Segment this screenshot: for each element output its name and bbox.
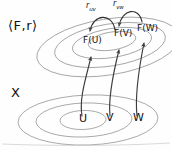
upper-ellipse-outer [33, 8, 172, 86]
section-label-FU: F(U) [83, 36, 102, 45]
restriction-map-sub-r-vw: vw [116, 4, 123, 10]
open-set-label-W: W [133, 112, 144, 123]
arrow-W-to-FW [136, 43, 144, 116]
section-label-FW: F(W) [137, 24, 158, 33]
open-set-label-U: U [79, 113, 87, 124]
section-label-FV: F(V) [114, 29, 132, 38]
lower-plane-label: X [11, 86, 20, 99]
arrow-U-to-FU [81, 57, 91, 116]
restriction-map-sub-r-uv: uv [89, 6, 95, 12]
sheaf-diagram: ⟨F,r⟩ X F(U) F(V) F(W) U V W ruv rvw [0, 0, 172, 150]
restriction-map-label-r-vw: rvw [113, 0, 123, 10]
restriction-map-label-r-uv: ruv [86, 2, 95, 12]
upper-plane-ellipses [33, 8, 172, 86]
section-arrows [81, 43, 144, 116]
open-set-label-V: V [106, 112, 114, 123]
upper-plane-label: ⟨F,r⟩ [8, 19, 38, 32]
base-plane-baseline [2, 143, 170, 145]
